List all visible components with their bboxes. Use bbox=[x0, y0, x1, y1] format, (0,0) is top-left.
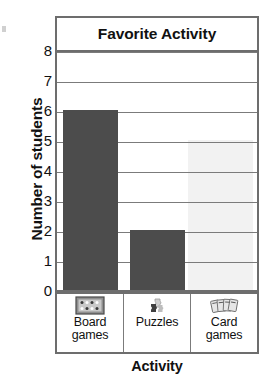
chart-title: Favorite Activity bbox=[98, 25, 216, 43]
chart-title-band: Favorite Activity bbox=[57, 18, 257, 52]
y-tick-label-2: 2 bbox=[30, 223, 52, 238]
y-tick-label-7: 7 bbox=[30, 73, 52, 88]
plot-frame: Favorite Activity bbox=[55, 16, 259, 292]
puzzle-piece-icon bbox=[142, 296, 172, 315]
y-tick-label-0: 0 bbox=[30, 283, 52, 298]
y-tick-label-8: 8 bbox=[30, 43, 52, 58]
category-cell-board-games: Board games bbox=[57, 294, 124, 352]
y-tick-label-6: 6 bbox=[30, 103, 52, 118]
gridline-8 bbox=[57, 52, 257, 53]
category-label-card-games: Card games bbox=[206, 316, 243, 342]
category-cell-puzzles: Puzzles bbox=[124, 294, 191, 352]
scan-artifact-mark bbox=[2, 26, 6, 32]
y-tick-label-5: 5 bbox=[30, 133, 52, 148]
board-game-icon bbox=[75, 296, 105, 315]
category-label-board-games: Board games bbox=[72, 316, 109, 342]
y-tick-label-1: 1 bbox=[30, 253, 52, 268]
plot-area bbox=[57, 52, 257, 290]
gridline-7 bbox=[57, 82, 257, 83]
y-axis-tick-labels: 876543210 bbox=[30, 40, 52, 296]
x-axis-category-strip: Board games Puzzles bbox=[55, 292, 259, 354]
scan-smudge bbox=[188, 140, 253, 290]
y-tick-label-3: 3 bbox=[30, 193, 52, 208]
x-axis-title: Activity bbox=[55, 358, 259, 374]
playing-cards-icon bbox=[209, 296, 239, 315]
y-tick-label-4: 4 bbox=[30, 163, 52, 178]
favorite-activity-bar-chart: Number of students 876543210 Favorite Ac… bbox=[0, 0, 272, 386]
bar-board-games bbox=[63, 110, 118, 290]
category-cell-card-games: Card games bbox=[191, 294, 257, 352]
bar-puzzles bbox=[130, 230, 185, 290]
category-label-puzzles: Puzzles bbox=[136, 316, 178, 329]
